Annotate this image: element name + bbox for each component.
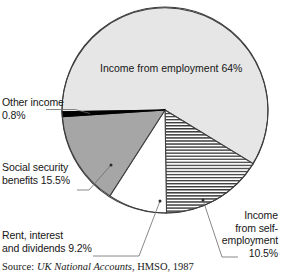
pie-callout-income-from-self-employment: Income from self- employment 10.5% xyxy=(222,209,278,259)
pie-callout-social-security-benefits: Social security benefits 15.5% xyxy=(2,161,70,186)
pie-label-income-from-employment: Income from employment 64% xyxy=(100,62,242,75)
pie-callout-rent-interest-and-dividends: Rent, interest and dividends 9.2% xyxy=(2,229,92,254)
pie-chart-figure: Income from employment 64% Other income … xyxy=(0,0,282,273)
source-title: UK National Accounts xyxy=(37,261,132,272)
source-rest: , HMSO, 1987 xyxy=(132,261,194,272)
pie-callout-other-income: Other income 0.8% xyxy=(2,96,64,121)
source-note: Source: UK National Accounts, HMSO, 1987 xyxy=(2,260,194,273)
source-prefix: Source: xyxy=(2,261,34,272)
